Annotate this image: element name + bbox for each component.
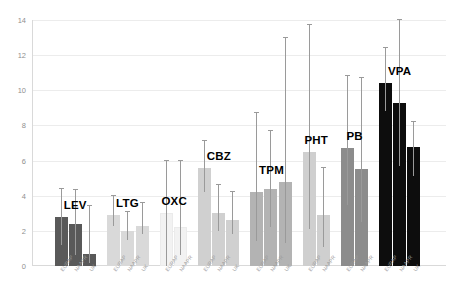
error-bar: [399, 20, 400, 166]
error-bar: [361, 78, 362, 222]
group-label-cbz: CBZ: [207, 150, 231, 162]
error-bar-cap-upper: [359, 77, 364, 78]
error-bar-cap-upper: [164, 160, 169, 161]
error-bar-cap-upper: [230, 191, 235, 192]
error-bar: [204, 141, 205, 192]
group-label-pht: PHT: [304, 134, 328, 146]
group-label-oxc: OXC: [161, 195, 187, 207]
y-axis-tick-label: 6: [6, 156, 26, 165]
error-bar-cap-upper: [307, 24, 312, 25]
error-bar: [285, 38, 286, 244]
y-axis-tick-label: 12: [6, 51, 26, 60]
group-label-lev: LEV: [64, 199, 87, 211]
error-bar-cap-upper: [411, 121, 416, 122]
error-bar: [166, 161, 167, 266]
group-label-pb: PB: [347, 130, 363, 142]
error-bar: [89, 206, 90, 262]
bar-chart: 02468101214 EURAPNAAPRUKLEVEURAPNAAPRUKL…: [0, 0, 450, 294]
y-axis-tick-label: 0: [6, 262, 26, 271]
error-bar-cap-upper: [202, 140, 207, 141]
y-axis-tick-label: 2: [6, 226, 26, 235]
error-bar-cap-upper: [178, 160, 183, 161]
error-bar-cap-upper: [73, 189, 78, 190]
error-bar-cap-upper: [321, 167, 326, 168]
y-axis-tick-label: 8: [6, 121, 26, 130]
error-bar: [385, 48, 386, 111]
y-axis-tick-label: 10: [6, 86, 26, 95]
error-bar: [61, 189, 62, 245]
error-bar: [142, 203, 143, 235]
group-label-ltg: LTG: [116, 197, 139, 209]
error-bar: [180, 161, 181, 256]
error-bar: [309, 25, 310, 229]
error-bar: [232, 192, 233, 234]
error-bar-cap-upper: [140, 202, 145, 203]
y-axis-tick-label: 14: [6, 16, 26, 25]
group-label-vpa: VPA: [388, 65, 411, 77]
error-bar-cap-upper: [216, 184, 221, 185]
error-bar-cap-upper: [345, 75, 350, 76]
group-label-tpm: TPM: [259, 164, 284, 176]
error-bar-cap-upper: [268, 130, 273, 131]
error-bar: [413, 122, 414, 176]
error-bar: [270, 131, 271, 228]
error-bar-cap-upper: [125, 211, 130, 212]
error-bar: [256, 113, 257, 241]
error-bar-cap-upper: [283, 37, 288, 38]
error-bar-cap-upper: [397, 19, 402, 20]
bars-layer: [33, 20, 446, 266]
error-bar-cap-upper: [87, 205, 92, 206]
error-bar: [113, 196, 114, 226]
error-bar-cap-upper: [383, 47, 388, 48]
y-axis-tick-label: 4: [6, 191, 26, 200]
error-bar: [127, 212, 128, 240]
error-bar-cap-upper: [254, 112, 259, 113]
error-bar: [218, 185, 219, 231]
error-bar: [323, 168, 324, 247]
error-bar-cap-upper: [111, 195, 116, 196]
error-bar-cap-upper: [59, 188, 64, 189]
